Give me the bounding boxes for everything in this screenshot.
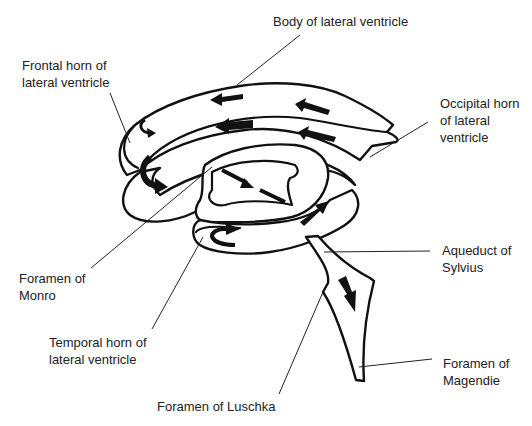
label-foramen-of-luschka: Foramen of Luschka — [157, 398, 276, 415]
leader-body — [237, 35, 300, 85]
leader-magendie — [359, 359, 432, 367]
third-ventricle-loop — [196, 144, 328, 222]
label-foramen-of-monro: Foramen of Monro — [19, 270, 85, 304]
leader-aqueduct — [324, 251, 430, 252]
leader-frontal — [110, 93, 130, 143]
label-temporal-horn: Temporal horn of lateral ventricle — [49, 334, 147, 368]
leader-temporal — [152, 237, 203, 329]
label-aqueduct-of-sylvius: Aqueduct of Sylvius — [442, 242, 511, 276]
ventricular-system-diagram: Body of lateral ventricle Frontal horn o… — [0, 0, 532, 426]
label-frontal-horn: Frontal horn of lateral ventricle — [22, 57, 109, 91]
leader-luschka — [279, 292, 323, 394]
label-foramen-of-magendie: Foramen of Magendie — [443, 355, 509, 389]
label-body-of-lateral-ventricle: Body of lateral ventricle — [273, 13, 408, 30]
label-occipital-horn: Occipital horn of lateral ventricle — [440, 95, 519, 146]
